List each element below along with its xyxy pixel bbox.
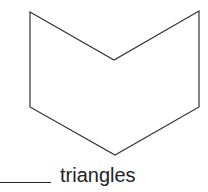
hexagon-outline	[30, 11, 199, 155]
answer-blank[interactable]	[0, 182, 51, 183]
answer-label: triangles	[60, 164, 136, 186]
